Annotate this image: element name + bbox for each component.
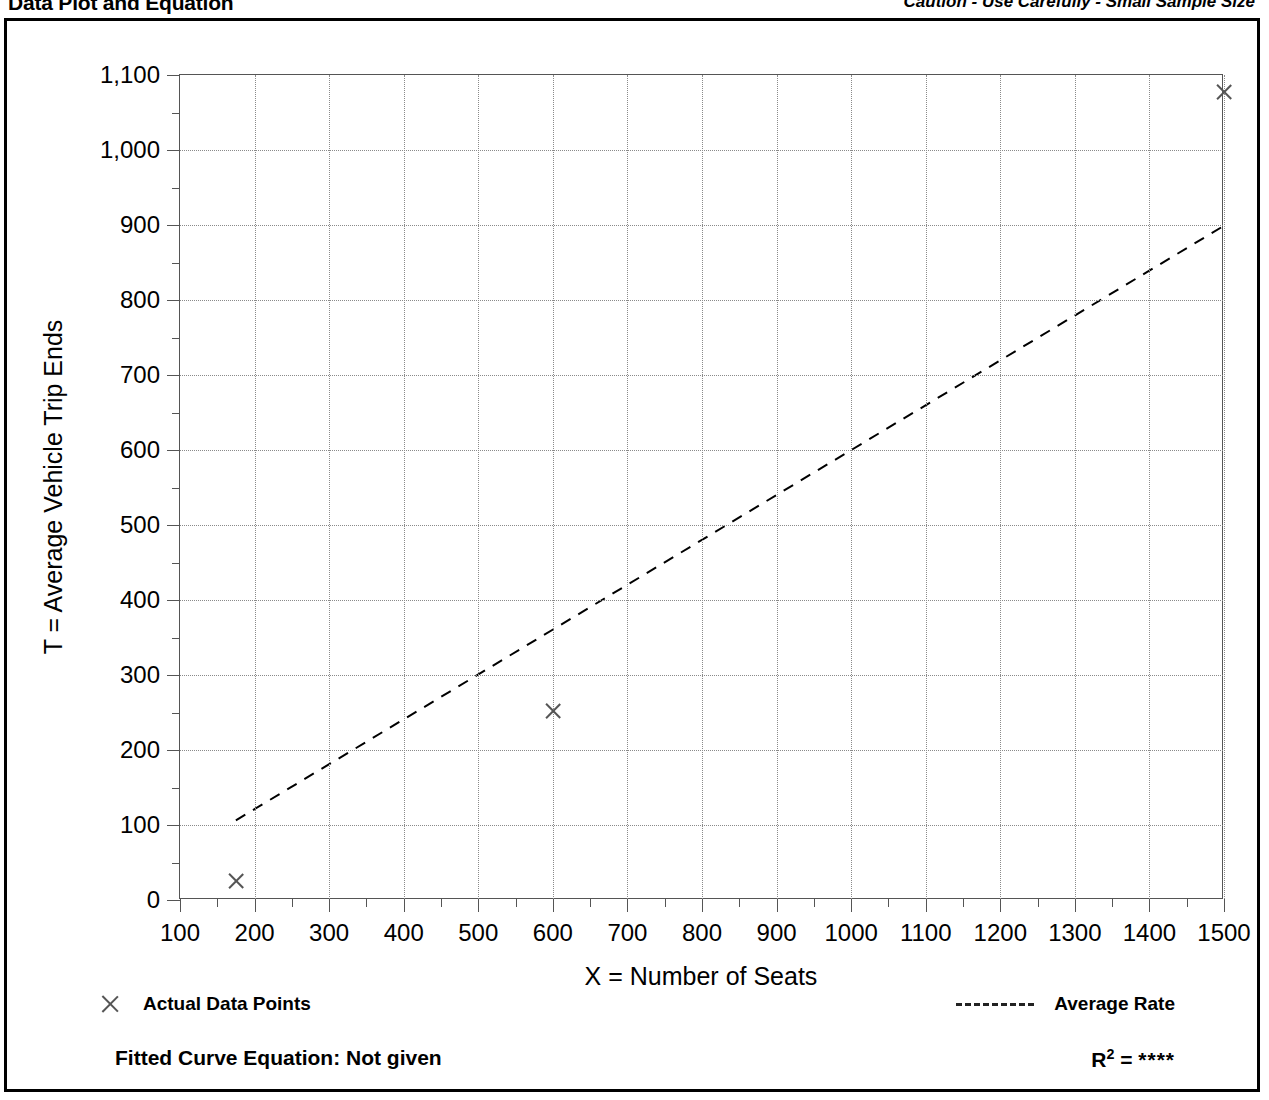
- gridline-vertical: [553, 75, 554, 899]
- gridline-vertical: [627, 75, 628, 899]
- x-axis-tick-label: 400: [384, 919, 424, 947]
- x-axis-tick-label: 600: [533, 919, 573, 947]
- equation-row: Fitted Curve Equation: Not given R2 = **…: [7, 1046, 1263, 1086]
- x-axis-tick-label: 200: [235, 919, 275, 947]
- x-axis-tick: [255, 899, 256, 912]
- x-axis-tick: [553, 899, 554, 912]
- y-axis-tick-label: 700: [120, 361, 160, 389]
- gridline-horizontal: [180, 525, 1223, 526]
- x-axis-minor-tick: [366, 899, 367, 907]
- y-axis-minor-tick: [172, 188, 180, 189]
- y-axis-tick: [167, 600, 180, 601]
- gridline-vertical: [1224, 75, 1225, 899]
- gridline-horizontal: [180, 225, 1223, 226]
- x-axis-tick-label: 1500: [1197, 919, 1250, 947]
- r-squared-stars: ****: [1138, 1048, 1175, 1071]
- x-axis-tick: [1224, 899, 1225, 912]
- y-axis-tick-label: 1,100: [100, 61, 160, 89]
- x-axis-tick-label: 500: [458, 919, 498, 947]
- x-axis-tick-label: 1100: [900, 919, 952, 947]
- gridline-vertical: [1000, 75, 1001, 899]
- legend-entry-line: Average Rate: [956, 993, 1175, 1015]
- y-axis-tick-label: 0: [147, 886, 160, 914]
- x-marker-icon: [99, 993, 121, 1015]
- x-axis-tick-label: 1400: [1123, 919, 1176, 947]
- data-point-marker: [226, 871, 246, 891]
- x-axis-tick-label: 300: [309, 919, 349, 947]
- legend-label-points: Actual Data Points: [143, 993, 311, 1015]
- y-axis-tick: [167, 675, 180, 676]
- x-axis-minor-tick: [814, 899, 815, 907]
- x-axis-minor-tick: [1038, 899, 1039, 907]
- gridline-horizontal: [180, 375, 1223, 376]
- x-axis-tick: [404, 899, 405, 912]
- x-axis-tick: [1000, 899, 1001, 912]
- y-axis-tick: [167, 150, 180, 151]
- dashed-line-icon: [956, 1003, 1034, 1006]
- gridline-vertical: [926, 75, 927, 899]
- data-point-marker: [1214, 82, 1234, 102]
- legend-entry-points: Actual Data Points: [99, 993, 311, 1015]
- x-axis-tick-label: 100: [160, 919, 200, 947]
- x-axis-tick-label: 1300: [1048, 919, 1101, 947]
- y-axis-minor-tick: [172, 638, 180, 639]
- gridline-vertical: [404, 75, 405, 899]
- x-axis-tick: [180, 899, 181, 912]
- x-axis-minor-tick: [739, 899, 740, 907]
- y-axis-minor-tick: [172, 113, 180, 114]
- y-axis-tick-label: 300: [120, 661, 160, 689]
- y-axis-tick: [167, 750, 180, 751]
- x-axis-minor-tick: [963, 899, 964, 907]
- y-axis-tick-label: 100: [120, 811, 160, 839]
- x-axis-tick: [851, 899, 852, 912]
- data-point-marker: [543, 701, 563, 721]
- y-axis-minor-tick: [172, 413, 180, 414]
- chart-legend: Actual Data Points Average Rate: [7, 993, 1263, 1033]
- gridline-vertical: [702, 75, 703, 899]
- x-axis-tick-label: 700: [607, 919, 647, 947]
- x-axis-tick: [478, 899, 479, 912]
- r-squared-prefix: R: [1091, 1048, 1106, 1071]
- gridline-vertical: [777, 75, 778, 899]
- x-axis-tick: [329, 899, 330, 912]
- gridline-vertical: [255, 75, 256, 899]
- x-axis-tick-label: 900: [757, 919, 797, 947]
- fitted-curve-equation: Fitted Curve Equation: Not given: [115, 1046, 442, 1070]
- page-header: Data Plot and Equation Caution - Use Car…: [0, 0, 1269, 18]
- x-axis-minor-tick: [1187, 899, 1188, 907]
- y-axis-minor-tick: [172, 563, 180, 564]
- gridline-horizontal: [180, 675, 1223, 676]
- y-axis-tick: [167, 825, 180, 826]
- y-axis-tick: [167, 300, 180, 301]
- y-axis-minor-tick: [172, 863, 180, 864]
- r-squared-equals: =: [1114, 1048, 1138, 1071]
- r-squared-value: R2 = ****: [1091, 1046, 1175, 1072]
- y-axis-tick: [167, 375, 180, 376]
- y-axis-tick: [167, 450, 180, 451]
- chart-container: T = Average Vehicle Trip Ends X = Number…: [7, 21, 1263, 1095]
- y-axis-tick: [167, 900, 180, 901]
- gridline-horizontal: [180, 825, 1223, 826]
- x-axis-tick: [926, 899, 927, 912]
- y-axis-minor-tick: [172, 788, 180, 789]
- y-axis-tick: [167, 525, 180, 526]
- legend-label-line: Average Rate: [1054, 993, 1175, 1015]
- y-axis-tick-label: 900: [120, 211, 160, 239]
- y-axis-title: T = Average Vehicle Trip Ends: [39, 320, 68, 655]
- x-axis-tick: [1149, 899, 1150, 912]
- x-axis-tick-label: 1200: [974, 919, 1027, 947]
- y-axis-minor-tick: [172, 338, 180, 339]
- y-axis-tick-label: 600: [120, 436, 160, 464]
- x-axis-tick-label: 800: [682, 919, 722, 947]
- caution-note: Caution - Use Carefully - Small Sample S…: [904, 0, 1255, 12]
- plot-area: 1002003004005006007008009001000110012001…: [179, 74, 1223, 899]
- y-axis-tick-label: 400: [120, 586, 160, 614]
- y-axis-tick-label: 500: [120, 511, 160, 539]
- x-axis-minor-tick: [590, 899, 591, 907]
- x-axis-minor-tick: [665, 899, 666, 907]
- gridline-vertical: [478, 75, 479, 899]
- y-axis-minor-tick: [172, 488, 180, 489]
- gridline-vertical: [851, 75, 852, 899]
- gridline-vertical: [1075, 75, 1076, 899]
- y-axis-tick-label: 1,000: [100, 136, 160, 164]
